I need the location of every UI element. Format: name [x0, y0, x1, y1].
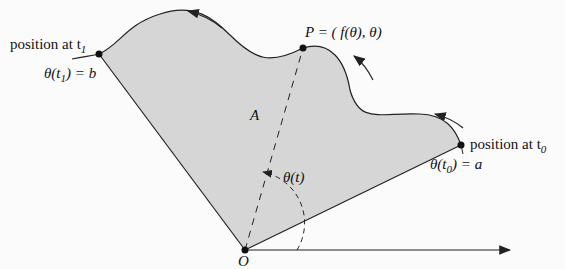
label-end-angle: θ(t0) = a: [430, 157, 482, 175]
label-origin: O: [238, 254, 249, 269]
point-t1: [96, 51, 103, 58]
point-P: [300, 45, 307, 52]
shaded-region: [99, 10, 461, 250]
label-start-position: position at t1: [10, 37, 86, 55]
label-point-P: P = ( f(θ), θ): [305, 25, 382, 40]
label-theta-t: θ(t): [283, 170, 305, 185]
label-area-A: A: [250, 108, 259, 123]
label-end-position: position at t0: [470, 137, 546, 155]
label-start-angle: θ(t1) = b: [44, 66, 96, 84]
direction-arrow-2: [354, 56, 373, 80]
